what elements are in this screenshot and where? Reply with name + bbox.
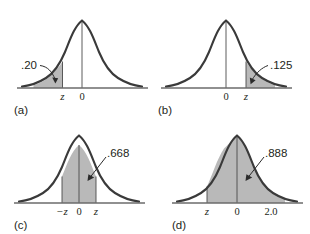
panel-a-tick-0: 0 — [79, 91, 84, 102]
panel-b: .125 0 z (b) — [158, 21, 292, 117]
panel-c-tick-0: 0 — [76, 206, 81, 217]
panel-d-tick-0: 0 — [234, 206, 239, 217]
panel-c-probability-label: .668 — [107, 147, 129, 159]
panel-d-probability-label: .888 — [265, 147, 287, 159]
panel-d: .888 z 0 2.0 (d) — [172, 136, 303, 232]
panel-a-probability-label: .20 — [21, 59, 37, 71]
panel-d-caption: (d) — [172, 219, 186, 231]
panel-b-caption: (b) — [158, 104, 172, 116]
panel-b-tick-z: z — [243, 90, 249, 102]
panel-d-tick-2: 2.0 — [264, 206, 277, 217]
normal-distribution-figure: .20 z 0 (a) .125 0 z — [0, 0, 310, 234]
figure-canvas: .20 z 0 (a) .125 0 z — [0, 0, 310, 234]
panel-a-caption: (a) — [14, 104, 28, 116]
panel-c-caption: (c) — [14, 219, 28, 231]
panel-c-tick-negz: −z — [56, 205, 68, 217]
panel-c: .668 −z 0 z (c) — [14, 136, 145, 232]
panel-a-tick-z: z — [59, 90, 65, 102]
panel-b-tick-0: 0 — [223, 91, 228, 102]
panel-c-tick-z: z — [93, 205, 99, 217]
panel-d-tick-z: z — [204, 205, 210, 217]
panel-a: .20 z 0 (a) — [14, 21, 148, 117]
panel-b-probability-label: .125 — [270, 59, 292, 71]
